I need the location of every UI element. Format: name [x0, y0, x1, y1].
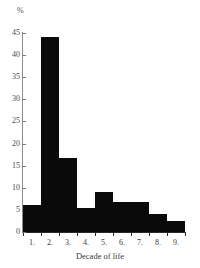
histogram-bar — [41, 37, 59, 232]
x-axis-tick — [23, 233, 24, 236]
x-axis-tick — [185, 233, 186, 236]
x-axis-tick — [77, 233, 78, 236]
x-axis-tick-label: 3. — [60, 238, 76, 247]
x-axis-tick — [167, 233, 168, 236]
histogram-bar — [113, 202, 131, 232]
y-axis-tick-label: 15 — [2, 162, 20, 170]
histogram-bar — [95, 192, 113, 232]
x-axis-tick-label: 8. — [150, 238, 166, 247]
plot-area — [23, 33, 185, 232]
y-axis-tick-label: 0 — [2, 228, 20, 236]
x-axis-tick-label: 5. — [96, 238, 112, 247]
histogram-bar — [131, 202, 149, 232]
y-axis-tick-label: 20 — [2, 140, 20, 148]
x-axis-tick-label: 7. — [132, 238, 148, 247]
y-axis-tick-label: 30 — [2, 95, 20, 103]
x-axis-tick-label: 6. — [114, 238, 130, 247]
x-axis-tick — [59, 233, 60, 236]
histogram-bar — [77, 208, 95, 232]
y-axis-tick-label: 5 — [2, 206, 20, 214]
x-axis-line — [22, 232, 186, 233]
x-axis-tick-label: 2. — [42, 238, 58, 247]
histogram-bar — [167, 221, 185, 232]
y-axis-tick-label: 40 — [2, 51, 20, 59]
x-axis-tick — [95, 233, 96, 236]
y-axis-tick-label: 35 — [2, 73, 20, 81]
y-axis-tick-label: 25 — [2, 117, 20, 125]
x-axis-tick — [41, 233, 42, 236]
histogram-chart: % 454035302520151050 1.2.3.4.5.6.7.8.9. … — [0, 0, 200, 268]
y-axis-tick-label: 45 — [2, 29, 20, 37]
x-axis-tick-label: 9. — [168, 238, 184, 247]
x-axis-tick — [131, 233, 132, 236]
histogram-bar — [23, 205, 41, 232]
x-axis-tick — [149, 233, 150, 236]
x-axis-tick-label: 1. — [24, 238, 40, 247]
histogram-bar — [59, 158, 77, 232]
x-axis-tick — [113, 233, 114, 236]
x-axis-title: Decade of life — [0, 251, 200, 261]
y-axis-unit-label: % — [17, 6, 24, 16]
y-axis-tick-label: 10 — [2, 184, 20, 192]
histogram-bar — [149, 214, 167, 232]
x-axis-tick-label: 4. — [78, 238, 94, 247]
